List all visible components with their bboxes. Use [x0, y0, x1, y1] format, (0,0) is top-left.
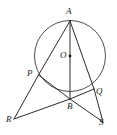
label-point-o: O: [60, 51, 67, 60]
label-point-r: R: [6, 115, 12, 124]
geometry-canvas: [0, 0, 117, 135]
segment-p-b: [39, 75, 71, 99]
label-point-a: A: [66, 7, 72, 16]
label-point-b: B: [67, 102, 73, 111]
center-point-dot: [69, 55, 72, 58]
segment-b-q: [70, 89, 94, 99]
geometry-figure: A O P B Q R S: [0, 0, 117, 135]
segment-a-q: [70, 21, 94, 89]
label-point-p: P: [27, 69, 33, 78]
segment-p-r: [14, 75, 39, 119]
label-point-q: Q: [96, 87, 103, 96]
label-point-s: S: [99, 118, 104, 127]
segment-r-b: [14, 99, 70, 119]
segment-a-p: [39, 21, 71, 75]
